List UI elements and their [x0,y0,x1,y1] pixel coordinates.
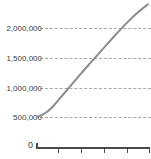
y-axis-label-0: 0 [28,140,33,150]
line-chart: 2,000,000 1,500,000 1,000,000 500,000 0 [0,0,151,159]
x-axis-line [36,147,150,149]
x-axis-tick-3 [104,149,105,153]
x-axis-tick-2 [81,149,82,153]
gridline-2000000 [40,28,151,29]
y-axis-label-1000000: 1,000,000 [0,84,42,93]
x-axis-tick-5 [149,149,150,153]
y-axis-label-1500000: 1,500,000 [0,54,42,63]
x-axis-tick-1 [58,149,59,153]
clipped-header-text [2,0,82,3]
gridline-1000000 [40,88,151,89]
y-axis-label-2000000: 2,000,000 [0,24,42,33]
x-axis-origin-cap [36,143,38,149]
gridline-500000 [40,117,151,118]
gridline-1500000 [40,58,151,59]
y-axis-label-500000: 500,000 [0,113,42,122]
x-axis-tick-4 [127,149,128,153]
data-line-series-1 [37,4,148,117]
